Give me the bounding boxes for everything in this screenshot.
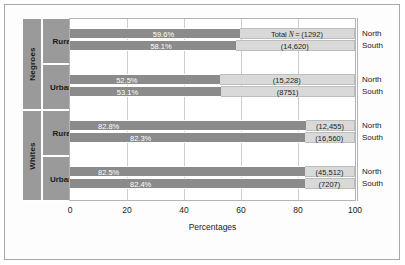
bar-row[interactable]: 52.5% (15,228) xyxy=(70,74,355,85)
bar-segment-remainder: (8751) xyxy=(221,86,355,97)
bar-segment-percent: 82.8% xyxy=(70,120,306,131)
bar-n-label: (16,560) xyxy=(305,133,354,142)
race-panel-label: Negroes xyxy=(28,47,37,80)
bar-percent-label: 82.5% xyxy=(98,167,119,176)
bar-segment-remainder: (45,512) xyxy=(305,166,355,177)
region-label: South xyxy=(362,179,383,188)
bar-segment-remainder: (12,455) xyxy=(306,120,355,131)
region-label: North xyxy=(362,167,382,176)
plot-area: 59.6% Total N = (1292) 58.1% (14,620) 52… xyxy=(69,18,356,201)
bar-n-label: (15,228) xyxy=(220,75,354,84)
bar-segment-percent: 82.3% xyxy=(70,132,305,143)
bar-percent-label: 52.5% xyxy=(116,75,137,84)
x-tick-label: 60 xyxy=(236,205,245,215)
bar-segment-remainder: Total N = (1292) xyxy=(240,28,355,39)
bar-segment-remainder: (16,560) xyxy=(305,132,355,143)
bar-percent-label: 82.3% xyxy=(130,133,151,142)
bar-segment-percent: 58.1% xyxy=(70,40,236,51)
bar-row[interactable]: 82.3% (16,560) xyxy=(70,132,355,143)
bar-row[interactable]: 59.6% Total N = (1292) xyxy=(70,28,355,39)
bar-n-label: (14,620) xyxy=(236,41,354,50)
bar-n-label: (12,455) xyxy=(306,121,354,130)
bar-percent-label: 58.1% xyxy=(150,41,171,50)
bar-row[interactable]: 82.8% (12,455) xyxy=(70,120,355,131)
bar-percent-label: 59.6% xyxy=(153,29,174,38)
bar-row[interactable]: 82.5% (45,512) xyxy=(70,166,355,177)
race-panel-whites: Whites xyxy=(22,110,42,201)
x-tick-label: 80 xyxy=(293,205,302,215)
bar-segment-percent: 82.5% xyxy=(70,166,305,177)
region-label: North xyxy=(362,29,382,38)
bar-segment-remainder: (7207) xyxy=(305,178,355,189)
region-label: South xyxy=(362,133,383,142)
bar-percent-label: 82.4% xyxy=(130,179,151,188)
bar-n-label: (7207) xyxy=(305,179,354,188)
bar-segment-remainder: (14,620) xyxy=(236,40,355,51)
x-axis-title: Percentages xyxy=(69,222,356,232)
bar-segment-percent: 59.6% xyxy=(70,28,240,39)
region-label: South xyxy=(362,87,383,96)
x-tick-label: 100 xyxy=(348,205,362,215)
bar-row[interactable]: 82.4% (7207) xyxy=(70,178,355,189)
region-label: North xyxy=(362,121,382,130)
x-tick-label: 0 xyxy=(68,205,73,215)
x-tick-label: 20 xyxy=(122,205,131,215)
bar-row[interactable]: 53.1% (8751) xyxy=(70,86,355,97)
bar-percent-label: 53.1% xyxy=(117,87,138,96)
race-panel-label: Whites xyxy=(28,142,37,169)
bar-n-label: (45,512) xyxy=(305,167,354,176)
bar-n-label: Total N = (1292) xyxy=(240,29,354,38)
bar-segment-percent: 82.4% xyxy=(70,178,305,189)
region-label: North xyxy=(362,75,382,84)
bar-row[interactable]: 58.1% (14,620) xyxy=(70,40,355,51)
chart-figure: Negroes Whites Rural Urban Rural Urban 5… xyxy=(0,0,405,265)
x-tick-label: 40 xyxy=(179,205,188,215)
bar-percent-label: 82.8% xyxy=(98,121,119,130)
bar-segment-percent: 52.5% xyxy=(70,74,220,85)
race-panel-negroes: Negroes xyxy=(22,18,42,110)
bar-segment-remainder: (15,228) xyxy=(220,74,355,85)
bar-segment-percent: 53.1% xyxy=(70,86,221,97)
region-label: South xyxy=(362,41,383,50)
bar-n-label: (8751) xyxy=(221,87,354,96)
region-label-column: North South North South North South Nort… xyxy=(357,18,396,201)
